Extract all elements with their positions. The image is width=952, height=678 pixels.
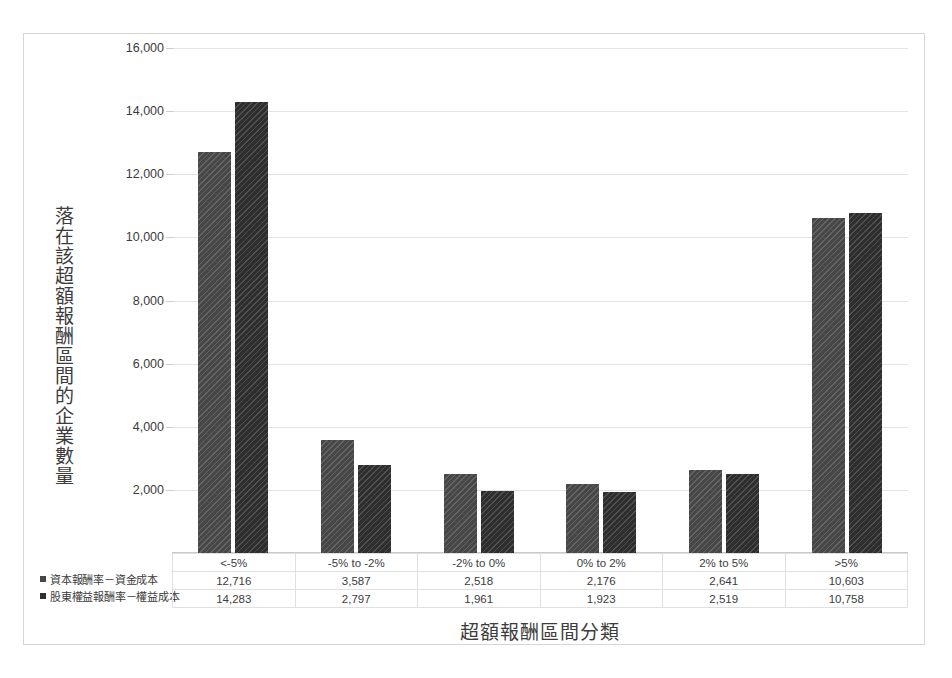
- bar-series1[interactable]: [321, 440, 354, 553]
- table-row-categories: <-5% -5% to -2% -2% to 0% 0% to 2% 2% to…: [173, 554, 908, 572]
- table-row-series1: 12,716 3,587 2,518 2,176 2,641 10,603: [173, 572, 908, 590]
- x-axis-title: 超額報酬區間分類: [172, 617, 908, 644]
- bar-series2[interactable]: [481, 491, 514, 553]
- bar-series1[interactable]: [444, 474, 477, 553]
- bar-group: [785, 48, 908, 553]
- legend-swatch-icon: [40, 576, 46, 582]
- y-axis-tick-labels: 16,000 14,000 12,000 10,000 8,000 6,000 …: [88, 48, 164, 553]
- y-tick-label: 6,000: [94, 357, 164, 371]
- bar-group: [295, 48, 418, 553]
- table-cell-value: 2,176: [540, 572, 663, 590]
- y-tick-label: 4,000: [94, 420, 164, 434]
- legend-label-series1: 資本報酬率－資金成本: [50, 571, 158, 587]
- table-cell-value: 12,716: [173, 572, 296, 590]
- y-tick-label: 8,000: [94, 294, 164, 308]
- table-cell-value: 10,603: [785, 572, 908, 590]
- bar-series1[interactable]: [812, 218, 845, 553]
- y-axis-title: 落在該超額報酬區間的企業數量: [40, 168, 74, 524]
- table-cell-category: <-5%: [173, 554, 296, 572]
- table-cell-value: 2,641: [663, 572, 786, 590]
- table-cell-value: 2,518: [418, 572, 541, 590]
- y-tick-label: 12,000: [94, 167, 164, 181]
- y-tick-label: 14,000: [94, 104, 164, 118]
- legend-label-series2: 股東權益報酬率－權益成本: [50, 588, 180, 604]
- table-cell-category: -5% to -2%: [295, 554, 418, 572]
- bar-group: [663, 48, 786, 553]
- table-cell-value: 10,758: [785, 590, 908, 608]
- y-tick-label: 10,000: [94, 230, 164, 244]
- table-cell-value: 14,283: [173, 590, 296, 608]
- table-cell-category: 0% to 2%: [540, 554, 663, 572]
- bar-series2[interactable]: [358, 465, 391, 553]
- table-cell-value: 1,923: [540, 590, 663, 608]
- y-tick-label: 2,000: [94, 483, 164, 497]
- table-cell-category: >5%: [785, 554, 908, 572]
- bar-group: [172, 48, 295, 553]
- legend-item-series2[interactable]: 股東權益報酬率－權益成本: [40, 587, 172, 604]
- legend-item-series1[interactable]: 資本報酬率－資金成本: [40, 570, 172, 587]
- bar-group: [540, 48, 663, 553]
- bar-series2[interactable]: [235, 102, 268, 553]
- bar-series1[interactable]: [198, 152, 231, 553]
- y-tick-label: 16,000: [94, 41, 164, 55]
- bar-series2[interactable]: [849, 213, 882, 553]
- bar-group: [417, 48, 540, 553]
- bars-layer: [172, 48, 908, 553]
- data-table: <-5% -5% to -2% -2% to 0% 0% to 2% 2% to…: [172, 553, 908, 608]
- bar-series2[interactable]: [726, 474, 759, 554]
- legend-swatch-icon: [40, 593, 46, 599]
- bar-series2[interactable]: [603, 492, 636, 553]
- table-cell-value: 2,519: [663, 590, 786, 608]
- legend: 資本報酬率－資金成本 股東權益報酬率－權益成本: [40, 570, 172, 604]
- table-row-series2: 14,283 2,797 1,961 1,923 2,519 10,758: [173, 590, 908, 608]
- table-cell-value: 3,587: [295, 572, 418, 590]
- table-cell-value: 2,797: [295, 590, 418, 608]
- table-cell-category: -2% to 0%: [418, 554, 541, 572]
- bar-series1[interactable]: [566, 484, 599, 553]
- table-cell-category: 2% to 5%: [663, 554, 786, 572]
- table-cell-value: 1,961: [418, 590, 541, 608]
- bar-series1[interactable]: [689, 470, 722, 553]
